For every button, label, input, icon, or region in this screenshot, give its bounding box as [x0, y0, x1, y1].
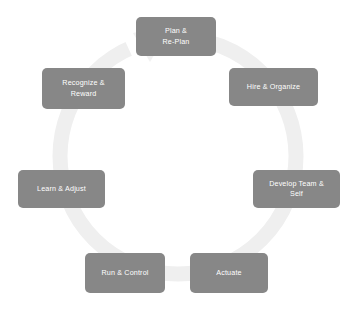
- cycle-node-actuate[interactable]: Actuate: [190, 253, 268, 293]
- cycle-node-run[interactable]: Run & Control: [85, 253, 165, 293]
- cycle-node-plan[interactable]: Plan & Re-Plan: [136, 17, 216, 56]
- cycle-node-label: Hire & Organize: [233, 82, 314, 93]
- cycle-node-learn[interactable]: Learn & Adjust: [18, 170, 105, 208]
- cycle-node-label: Actuate: [194, 268, 264, 279]
- cycle-node-label: Develop Team & Self: [257, 179, 336, 200]
- cycle-node-label: Recognize & Reward: [46, 78, 121, 99]
- cycle-node-label: Learn & Adjust: [22, 184, 101, 195]
- cycle-node-develop[interactable]: Develop Team & Self: [253, 170, 340, 208]
- cycle-node-hire[interactable]: Hire & Organize: [229, 68, 318, 106]
- cycle-node-label: Plan & Re-Plan: [140, 26, 212, 47]
- cycle-diagram: Plan & Re-Plan Hire & Organize Develop T…: [0, 0, 350, 309]
- cycle-node-recognize[interactable]: Recognize & Reward: [42, 68, 125, 109]
- cycle-node-label: Run & Control: [89, 268, 161, 279]
